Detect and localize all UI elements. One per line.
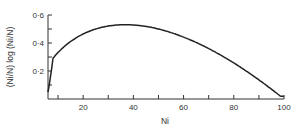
x-ticks: 20406080100 bbox=[58, 95, 291, 112]
x-axis-label: Ni bbox=[161, 116, 169, 126]
data-line bbox=[48, 25, 284, 97]
chart: 0·20·40·6 20406080100 Ni (Ni/N) log (Ni/… bbox=[0, 0, 302, 133]
x-tick-label: 20 bbox=[79, 103, 88, 112]
x-tick-label: 100 bbox=[277, 103, 291, 112]
x-tick-label: 40 bbox=[129, 103, 138, 112]
y-tick-label: 0·4 bbox=[32, 39, 44, 48]
x-tick-label: 60 bbox=[179, 103, 188, 112]
y-ticks: 0·20·40·6 bbox=[32, 11, 52, 85]
x-tick-label: 80 bbox=[229, 103, 238, 112]
y-tick-label: 0·6 bbox=[32, 11, 44, 20]
y-tick-label: 0·2 bbox=[32, 67, 44, 76]
axes bbox=[48, 15, 284, 99]
y-axis-label: (Ni/N) log (Ni/N) bbox=[5, 27, 15, 88]
